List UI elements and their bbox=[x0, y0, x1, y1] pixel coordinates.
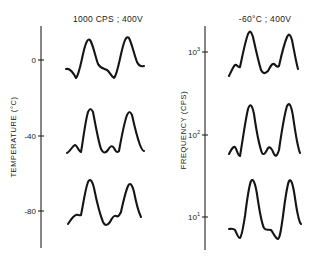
left-tick-label-1: -40 bbox=[24, 132, 36, 141]
right-panel: -60°C ; 400V FREQUENCY (CPS) 103 102 101 bbox=[179, 14, 301, 250]
chart-canvas: 1000 CPS ; 400V TEMPERATURE (°C) 0 -40 -… bbox=[0, 0, 316, 260]
right-trace-100cps bbox=[229, 104, 300, 156]
left-panel-title: 1000 CPS ; 400V bbox=[73, 14, 143, 24]
right-y-axis-label: FREQUENCY (CPS) bbox=[179, 91, 188, 169]
right-trace-1000cps bbox=[229, 32, 298, 76]
right-tick-label-1000: 103 bbox=[188, 46, 200, 57]
figure: 1000 CPS ; 400V TEMPERATURE (°C) 0 -40 -… bbox=[0, 0, 316, 260]
left-trace-minus80C bbox=[68, 180, 141, 225]
right-trace-10cps bbox=[229, 180, 301, 239]
left-tick-label-0: 0 bbox=[32, 56, 37, 65]
right-panel-title: -60°C ; 400V bbox=[239, 14, 291, 24]
left-tick-0: 0 bbox=[32, 56, 44, 65]
left-y-axis-label: TEMPERATURE (°C) bbox=[9, 96, 18, 177]
left-panel: 1000 CPS ; 400V TEMPERATURE (°C) 0 -40 -… bbox=[9, 14, 144, 248]
left-tick-label-2: -80 bbox=[24, 207, 36, 216]
left-trace-minus40C bbox=[67, 109, 144, 153]
right-tick-label-10: 101 bbox=[188, 211, 200, 222]
right-tick-label-100: 102 bbox=[188, 129, 200, 140]
left-trace-0C bbox=[66, 37, 144, 78]
